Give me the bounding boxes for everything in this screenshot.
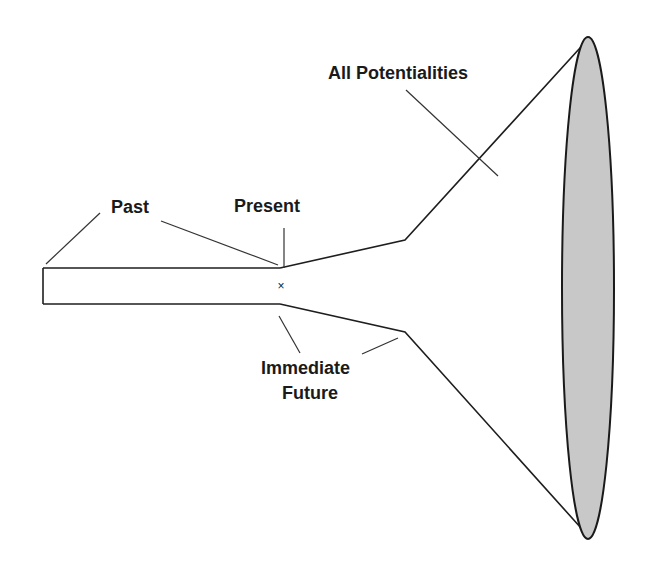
label-present: Present <box>234 196 300 216</box>
funnel-lower-edge <box>280 304 590 538</box>
present-point-marker: × <box>277 279 284 293</box>
label-immediate-future-line2: Future <box>282 383 338 403</box>
timeline-funnel-diagram: × Past Present Immediate Future All Pote… <box>0 0 650 568</box>
label-past: Past <box>111 197 149 217</box>
past-tube <box>43 268 280 304</box>
potentialities-ellipse <box>562 37 614 539</box>
label-all-potentialities: All Potentialities <box>328 63 468 83</box>
leader-lines <box>46 90 498 354</box>
label-immediate-future-line1: Immediate <box>261 358 350 378</box>
